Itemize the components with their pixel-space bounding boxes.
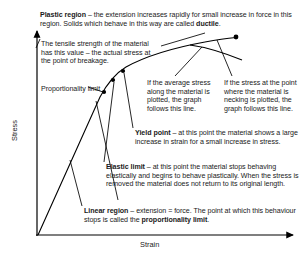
leader-yield-point <box>124 73 133 128</box>
annotation-elastic-limit-term: Elastic limit <box>106 163 145 171</box>
stress-strain-diagram: Stress Strain Plastic region – the exten… <box>0 0 307 254</box>
elastic-limit-marker <box>111 78 115 82</box>
breaking-point-marker <box>234 35 239 40</box>
annotation-necking-stress: If the stress at the point where the mat… <box>224 79 302 113</box>
annotation-plastic-region-tail: . <box>219 20 221 28</box>
curve-true-stress-branch <box>205 38 236 43</box>
annotation-linear-region-tail: . <box>207 216 209 224</box>
annotation-elastic-limit: Elastic limit – at this point the materi… <box>106 163 301 189</box>
annotation-tensile-strength: The tensile strength of the material has… <box>41 40 161 66</box>
curve-engineering-stress-branch <box>190 45 242 60</box>
annotation-linear-region-term: Linear region <box>84 207 128 215</box>
annotation-yield-point: Yield point – at this point the material… <box>135 129 303 146</box>
annotation-yield-point-term: Yield point <box>135 129 171 137</box>
leader-elastic-limit <box>104 82 114 162</box>
annotation-plastic-region: Plastic region – the extension increases… <box>40 11 302 28</box>
annotation-plastic-region-term2: ductile <box>196 20 219 28</box>
leader-linear-region <box>70 160 82 206</box>
y-axis-label: Stress <box>10 111 19 151</box>
annotation-linear-region-term2: proportionality limit <box>142 216 208 224</box>
annotation-linear-region: Linear region – extension = force. The p… <box>84 207 302 224</box>
leader-average-stress <box>175 47 202 76</box>
x-axis-label: Strain <box>140 240 159 249</box>
leader-tensile-to-peak <box>161 33 205 46</box>
annotation-plastic-region-term: Plastic region <box>40 11 86 19</box>
leader-necking <box>217 40 232 76</box>
annotation-average-stress: If the average stress along the material… <box>147 79 219 113</box>
yield-point-marker <box>121 69 125 73</box>
annotation-proportionality-limit: Proportionality limit <box>41 85 101 94</box>
